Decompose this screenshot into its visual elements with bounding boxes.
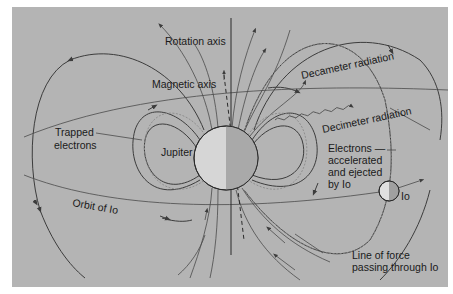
io-label: Io <box>401 190 410 202</box>
electrons-label-line1: Electrons — <box>328 142 386 154</box>
jupiter-magnetosphere-diagram: Rotation axis Magnetic axis Decameter ra… <box>0 0 453 294</box>
electrons-label-line2: accelerated <box>328 154 382 166</box>
magnetic-axis-label: Magnetic axis <box>152 78 216 90</box>
electrons-label-line3: and ejected <box>328 166 382 178</box>
io-moon <box>379 181 399 201</box>
line-of-force-label-line2: passing through Io <box>352 261 439 273</box>
line-of-force-leader <box>295 234 323 253</box>
trapped-electrons-label-line2: electrons <box>54 139 97 151</box>
electrons-label-line4: by Io <box>328 178 351 190</box>
trapped-electrons-label-line1: Trapped <box>55 126 94 138</box>
jupiter-planet <box>194 126 258 190</box>
orbit-of-io-label: Orbit of Io <box>72 196 120 216</box>
trapped-electrons-leader <box>96 133 142 140</box>
jupiter-label: Jupiter <box>161 146 193 158</box>
rotation-axis-label: Rotation axis <box>165 35 226 47</box>
line-of-force-label-line1: Line of force <box>352 249 410 261</box>
